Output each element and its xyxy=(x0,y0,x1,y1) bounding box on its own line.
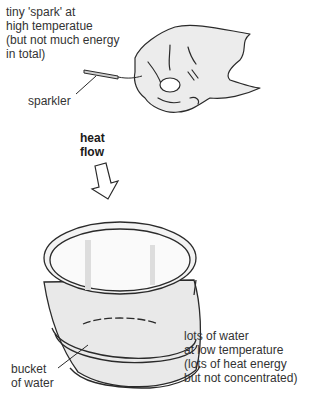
sparkler-icon xyxy=(76,70,142,94)
bucket-label-line-2: of water xyxy=(11,376,54,390)
bucket-label-line-1: bucket xyxy=(11,362,46,376)
water-note-line-2: at low temperature xyxy=(184,343,283,357)
spark-note-line-1: tiny 'spark' at xyxy=(6,5,75,19)
heat-flow-label-line-1: heat xyxy=(80,131,105,145)
water-note-line-4: but not concentrated) xyxy=(184,371,297,385)
spark-note-line-3: (but not much energy xyxy=(6,33,119,47)
spark-note-line-4: in total) xyxy=(6,47,45,61)
bucket-icon xyxy=(44,222,200,388)
spark-note-line-2: high temperatue xyxy=(6,19,93,33)
heat-flow-label-line-2: flow xyxy=(80,145,104,159)
hand-icon xyxy=(134,25,260,112)
heat-flow-arrow-icon xyxy=(92,163,118,199)
water-note-line-3: (lots of heat energy xyxy=(184,357,287,371)
water-note-line-1: lots of water xyxy=(184,329,249,343)
sparkler-label: sparkler xyxy=(28,94,71,108)
